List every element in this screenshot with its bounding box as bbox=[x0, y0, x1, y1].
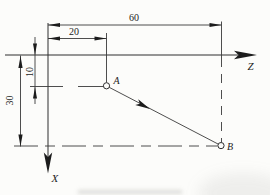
dim-60-arrow-right-icon bbox=[210, 23, 222, 27]
dim-30-arrow-up-icon bbox=[18, 56, 22, 68]
cropped-caption-artifact bbox=[78, 190, 182, 194]
dim-10-label: 10 bbox=[24, 67, 35, 77]
dim-30-arrow-down-icon bbox=[18, 135, 22, 147]
vector-ab-line bbox=[109, 87, 218, 144]
point-a-label: A bbox=[113, 75, 121, 86]
point-b-marker bbox=[218, 143, 224, 149]
dim-10-arrow-up-icon bbox=[33, 87, 37, 99]
dim-20-arrow-left-icon bbox=[48, 36, 60, 40]
x-axis-label: X bbox=[51, 172, 60, 184]
drawing-canvas: Z X 60 20 10 30 A bbox=[0, 0, 270, 195]
dim-60-arrow-left-icon bbox=[48, 23, 60, 27]
technical-drawing: Z X 60 20 10 30 A bbox=[0, 0, 270, 195]
point-a-marker bbox=[103, 83, 109, 89]
dim-60-label: 60 bbox=[129, 12, 139, 23]
point-b-label: B bbox=[227, 141, 233, 152]
vector-ab-arrowhead-icon bbox=[135, 99, 150, 109]
dim-20-arrow-right-icon bbox=[95, 36, 107, 40]
dim-20-label: 20 bbox=[69, 26, 79, 37]
z-axis-label: Z bbox=[248, 60, 255, 72]
dim-30-label: 30 bbox=[4, 96, 15, 106]
dim-10-arrow-down-icon bbox=[33, 44, 37, 56]
